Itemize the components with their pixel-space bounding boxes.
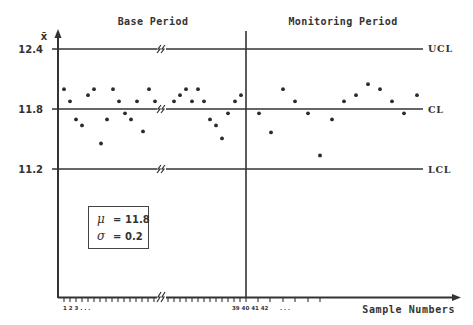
y-axis-arrow-icon: [55, 29, 62, 38]
mu-symbol: μ: [97, 211, 113, 228]
break-icon-cl: [157, 105, 165, 113]
y-axis-label: x̄: [41, 31, 48, 42]
ucl-line: UCL: [58, 43, 453, 54]
data-point: [239, 93, 243, 97]
data-point: [86, 93, 90, 97]
data-point: [378, 87, 382, 91]
data-point: [147, 87, 151, 91]
data-point: [129, 118, 133, 122]
break-icon-ucl: [157, 45, 165, 53]
data-point: [135, 99, 139, 103]
data-point: [214, 124, 218, 128]
ucl-label: UCL: [428, 43, 453, 54]
y-tick-12-4: 12.4: [18, 44, 43, 55]
stats-box: μ=11.8 σ=0.2: [88, 206, 149, 249]
data-point: [80, 124, 84, 128]
base-period-title: Base Period: [118, 16, 189, 27]
data-point: [196, 87, 200, 91]
data-point: [281, 87, 285, 91]
data-point: [68, 99, 72, 103]
data-point: [153, 99, 157, 103]
data-point: [269, 131, 273, 135]
data-point: [123, 111, 127, 115]
data-point: [306, 111, 310, 115]
sigma-symbol: σ: [97, 228, 113, 245]
mu-equals: =: [113, 211, 125, 228]
data-point: [390, 99, 394, 103]
x-axis-arrow-icon: [452, 294, 461, 301]
y-tick-11-2: 11.2: [18, 164, 43, 175]
data-point: [318, 154, 322, 158]
data-point: [62, 87, 66, 91]
sigma-equals: =: [113, 228, 125, 245]
mu-row: μ=11.8: [97, 211, 148, 228]
break-icon-xaxis: [157, 292, 165, 302]
lcl-line: LCL: [58, 164, 451, 175]
axis-break-icons: [157, 45, 165, 302]
lcl-label: LCL: [428, 164, 451, 175]
data-point: [330, 118, 334, 122]
data-point: [220, 137, 224, 141]
data-point: [190, 99, 194, 103]
data-point: [172, 99, 176, 103]
data-point: [257, 111, 261, 115]
sigma-value: 0.2: [125, 231, 143, 242]
data-point: [92, 87, 96, 91]
data-point: [354, 93, 358, 97]
data-point: [99, 142, 103, 146]
x-tick-labels-start: 1 2 3 . . .: [63, 305, 90, 311]
data-point: [402, 111, 406, 115]
data-point: [342, 99, 346, 103]
data-point: [117, 99, 121, 103]
data-point: [233, 99, 237, 103]
x-tick-labels-after: . . .: [280, 305, 290, 311]
data-point: [184, 87, 188, 91]
data-point: [226, 111, 230, 115]
data-point: [293, 99, 297, 103]
cl-label: CL: [428, 104, 444, 115]
data-point: [366, 82, 370, 86]
data-point: [202, 99, 206, 103]
x-axis: 1 2 3 . . . 39 40 41 42 . . . Sample Num…: [58, 294, 461, 315]
y-axis: x̄ 12.4 11.8 11.2: [18, 29, 61, 298]
sigma-row: σ=0.2: [97, 228, 148, 245]
y-tick-11-8: 11.8: [18, 104, 43, 115]
data-point: [178, 93, 182, 97]
control-chart: Base Period Monitoring Period x̄ 12.4 11…: [0, 0, 473, 325]
break-icon-lcl: [157, 165, 165, 173]
data-point: [74, 118, 78, 122]
x-axis-label: Sample Numbers: [362, 304, 455, 315]
mu-value: 11.8: [125, 214, 150, 225]
data-points: [62, 82, 419, 157]
data-point: [105, 118, 109, 122]
data-point: [111, 87, 115, 91]
monitoring-period-title: Monitoring Period: [288, 16, 397, 27]
data-point: [208, 118, 212, 122]
cl-line: CL: [58, 104, 444, 115]
data-point: [141, 130, 145, 134]
data-point: [415, 93, 419, 97]
x-tick-labels-divider: 39 40 41 42: [232, 305, 269, 311]
